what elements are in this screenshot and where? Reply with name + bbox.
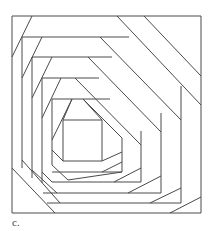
spiral-quadrilateral-drawing xyxy=(0,0,210,231)
diagram-line xyxy=(102,152,122,161)
diagram-line xyxy=(114,168,141,182)
diagram-line xyxy=(102,162,122,172)
diagram-line xyxy=(144,16,201,76)
diagram-line xyxy=(88,57,161,132)
diagram-line xyxy=(75,78,141,145)
diagram-line xyxy=(100,37,181,120)
diagram-line xyxy=(68,172,122,180)
diagram-line xyxy=(52,150,63,161)
figure-caption: c. xyxy=(12,216,20,228)
diagram-line xyxy=(63,99,72,120)
diagram-line xyxy=(128,176,161,193)
diagram-line xyxy=(150,188,181,203)
diagram-line xyxy=(117,16,201,105)
diagram-line xyxy=(170,197,201,213)
